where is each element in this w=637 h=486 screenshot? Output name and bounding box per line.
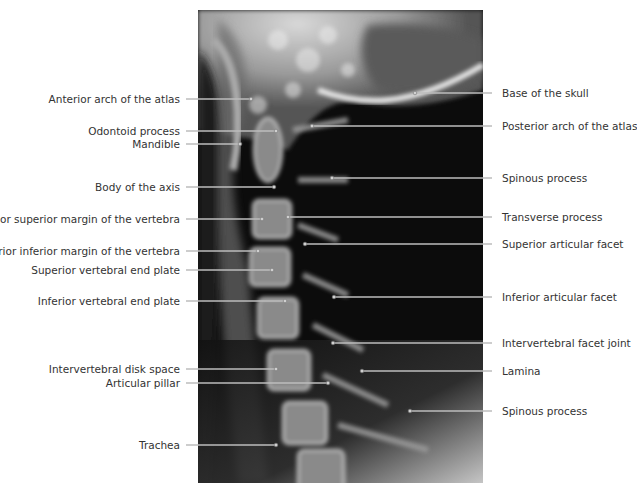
label-spinous-process-lower: Spinous process — [502, 405, 587, 417]
label-intervertebral-disk-space: Intervertebral disk space — [49, 363, 180, 375]
label-odontoid-process: Odontoid process — [88, 125, 180, 137]
label-base-of-skull: Base of the skull — [502, 87, 589, 99]
label-inferior-articular-facet: Inferior articular facet — [502, 291, 617, 303]
label-trachea: Trachea — [139, 439, 180, 451]
label-superior-articular-facet: Superior articular facet — [502, 238, 623, 250]
label-posterior-arch-atlas: Posterior arch of the atlas — [502, 120, 637, 132]
label-anterior-superior-margin: Anterior superior margin of the vertebra — [0, 213, 180, 225]
label-mandible: Mandible — [132, 138, 180, 150]
label-articular-pillar: Articular pillar — [106, 377, 180, 389]
label-intervertebral-facet-joint: Intervertebral facet joint — [502, 337, 631, 349]
label-superior-vertebral-end-plate: Superior vertebral end plate — [31, 264, 180, 276]
label-anterior-arch-atlas: Anterior arch of the atlas — [49, 93, 180, 105]
label-lamina: Lamina — [502, 365, 541, 377]
label-anterior-inferior-margin: Anterior inferior margin of the vertebra — [0, 245, 180, 257]
label-inferior-vertebral-end-plate: Inferior vertebral end plate — [38, 295, 180, 307]
label-spinous-process-upper: Spinous process — [502, 172, 587, 184]
label-body-of-axis: Body of the axis — [95, 181, 180, 193]
label-transverse-process: Transverse process — [502, 211, 602, 223]
